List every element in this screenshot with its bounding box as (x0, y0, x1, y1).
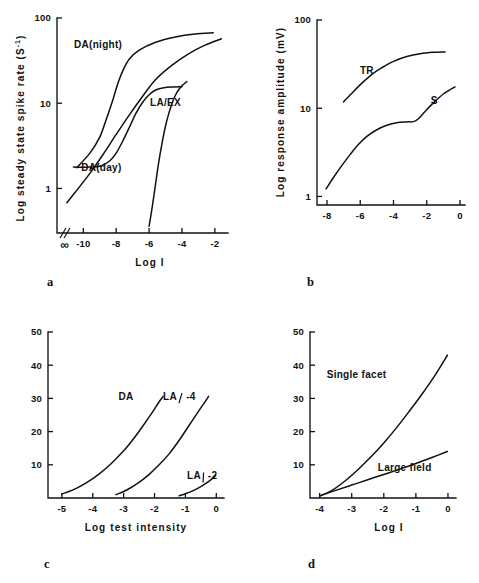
panel-b: 110100 -8-6-4-20 Log response amplitude … (239, 0, 479, 292)
panel-a-letter: a (47, 275, 54, 289)
panel-b-letter: b (307, 275, 314, 289)
panel-c-letter-layer: c (0, 291, 240, 583)
panel-d-letter: d (308, 557, 315, 571)
panel-b-letter-layer: b (239, 0, 479, 292)
panel-c: 1020304050 -5-4-3-2-10 Log test intensit… (0, 291, 240, 583)
figure-container: 110100 -10-8-6-4-2∞ Log steady state spi… (0, 0, 479, 583)
panel-d-letter-layer: d (239, 291, 479, 583)
panel-a-letter-layer: a (0, 0, 240, 292)
panel-a: 110100 -10-8-6-4-2∞ Log steady state spi… (0, 0, 240, 292)
panel-d: 1020304050 -4-3-2-10 Log I Single facetL… (239, 291, 479, 583)
panel-c-letter: c (44, 557, 50, 571)
